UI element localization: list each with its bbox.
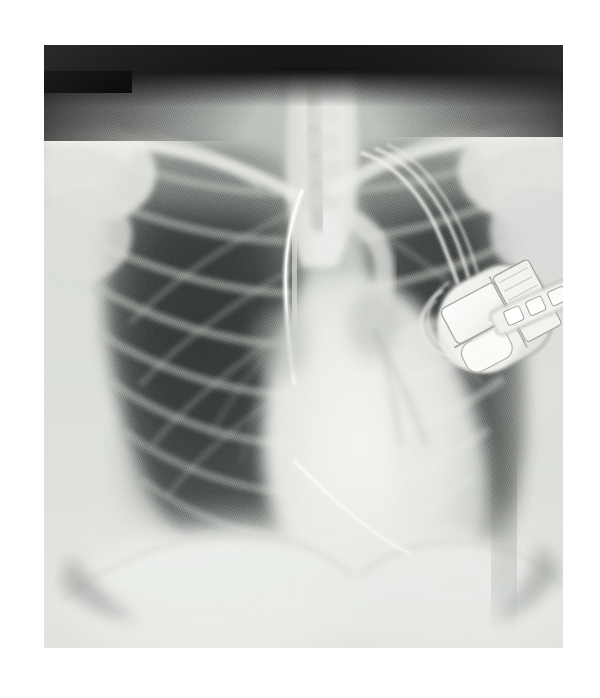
page-root (0, 0, 600, 698)
radiograph-canvas (44, 45, 563, 648)
radiograph-frame (44, 45, 563, 648)
radiograph-svg (44, 45, 563, 648)
